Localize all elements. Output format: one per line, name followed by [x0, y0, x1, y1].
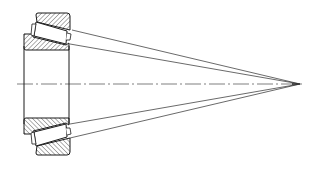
bore-lines	[24, 46, 69, 124]
cone-line-top-outer	[72, 30, 300, 84]
cone-line-top-inner	[70, 44, 300, 84]
bearing-section-bottom	[24, 118, 71, 155]
cone-line-bottom-outer	[70, 84, 300, 138]
bearing-diagram	[0, 0, 324, 171]
bearing-section-top	[24, 13, 71, 50]
bearing-drawing	[0, 0, 324, 171]
cone-line-bottom-inner	[70, 84, 300, 124]
